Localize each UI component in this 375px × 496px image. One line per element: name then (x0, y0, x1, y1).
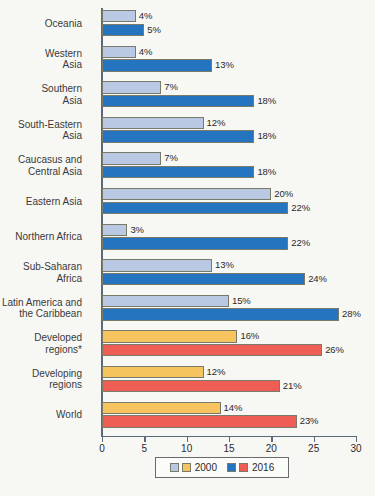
bar-value-label: 18% (257, 130, 276, 142)
legend-swatch-2000-blue (170, 463, 179, 472)
bar-2016 (102, 273, 305, 285)
bar-2016 (102, 59, 212, 71)
bar-2016 (102, 202, 288, 214)
x-tick-mark (144, 437, 145, 442)
bar-value-label: 21% (283, 380, 302, 392)
bar-2000 (102, 46, 136, 58)
bar-2000 (102, 188, 271, 200)
bar-2016 (102, 95, 254, 107)
bar-value-label: 22% (291, 202, 310, 214)
bar-chart: OceaniaWestern AsiaSouthern AsiaSouth-Ea… (0, 0, 375, 496)
bar-group-row: 16%26% (0, 330, 375, 357)
bar-value-label: 5% (147, 24, 161, 36)
bar-group-row: 13%24% (0, 259, 375, 286)
bar-value-label: 20% (274, 188, 293, 200)
bar-group-row: 3%22% (0, 224, 375, 251)
legend-swatch-2016-warm (239, 463, 248, 472)
bar-group-row: 4%5% (0, 10, 375, 37)
bar-value-label: 12% (207, 366, 226, 378)
bar-value-label: 3% (130, 224, 144, 236)
bar-2000 (102, 402, 221, 414)
x-tick-label: 20 (266, 443, 277, 454)
bar-group-row: 20%22% (0, 188, 375, 215)
bar-2000 (102, 259, 212, 271)
bar-2016 (102, 166, 254, 178)
x-tick-label: 30 (350, 443, 361, 454)
bar-2000 (102, 10, 136, 22)
bar-value-label: 13% (215, 59, 234, 71)
bar-2000 (102, 152, 161, 164)
x-tick-mark (314, 437, 315, 442)
bar-2016 (102, 130, 254, 142)
x-tick-label: 0 (99, 443, 105, 454)
bar-value-label: 15% (232, 295, 251, 307)
x-tick-mark (102, 437, 103, 442)
legend-label-2000: 2000 (195, 462, 217, 473)
bar-value-label: 7% (164, 81, 178, 93)
bar-value-label: 16% (240, 330, 259, 342)
x-tick-label: 15 (223, 443, 234, 454)
bar-2000 (102, 224, 127, 236)
x-tick-label: 10 (181, 443, 192, 454)
bar-group-row: 7%18% (0, 81, 375, 108)
legend-swatch-2000-warm (182, 463, 191, 472)
legend-label-2016: 2016 (252, 462, 274, 473)
bar-2000 (102, 295, 229, 307)
bar-value-label: 14% (224, 402, 243, 414)
bar-2000 (102, 366, 204, 378)
bar-2016 (102, 344, 322, 356)
bar-value-label: 13% (215, 259, 234, 271)
bar-value-label: 4% (139, 46, 153, 58)
x-tick-mark (356, 437, 357, 442)
bar-value-label: 12% (207, 117, 226, 129)
bar-2000 (102, 117, 204, 129)
bar-group-row: 15%28% (0, 295, 375, 322)
bar-group-row: 12%21% (0, 366, 375, 393)
x-tick-label: 5 (142, 443, 148, 454)
bar-value-label: 18% (257, 166, 276, 178)
bar-2000 (102, 330, 237, 342)
bar-2000 (102, 81, 161, 93)
legend-swatch-2016-blue (227, 463, 236, 472)
legend-entry-2016: 2016 (227, 462, 274, 473)
bar-group-row: 4%13% (0, 46, 375, 73)
chart-legend: 2000 2016 (155, 457, 289, 478)
bar-group-row: 14%23% (0, 402, 375, 429)
bar-value-label: 4% (139, 10, 153, 22)
bar-value-label: 23% (300, 415, 319, 427)
bar-value-label: 28% (342, 308, 361, 320)
bar-value-label: 24% (308, 273, 327, 285)
x-tick-label: 25 (308, 443, 319, 454)
bar-value-label: 26% (325, 344, 344, 356)
legend-entry-2000: 2000 (170, 462, 223, 473)
bar-group-row: 12%18% (0, 117, 375, 144)
bar-2016 (102, 237, 288, 249)
bar-value-label: 7% (164, 152, 178, 164)
bar-2016 (102, 308, 339, 320)
x-tick-mark (229, 437, 230, 442)
bar-value-label: 22% (291, 237, 310, 249)
x-tick-mark (271, 437, 272, 442)
bar-2016 (102, 380, 280, 392)
bar-value-label: 18% (257, 95, 276, 107)
bar-2016 (102, 24, 144, 36)
x-tick-mark (187, 437, 188, 442)
bar-group-row: 7%18% (0, 152, 375, 179)
bar-2016 (102, 415, 297, 427)
